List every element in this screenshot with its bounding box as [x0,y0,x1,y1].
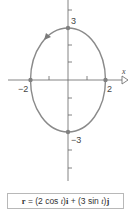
label-x-axis: x [121,67,126,76]
ellipse-diagram: 3 −3 −2 2 x [0,0,132,215]
eq-part1: = (2 cos [26,196,61,206]
x-axis-arrow-icon [122,76,128,84]
equation-box: r = (2 cos t ) i + (3 sin t ) j [7,193,124,209]
label-x-neg2: −2 [18,84,28,94]
label-x-2: 2 [107,84,112,94]
eq-part2: + (3 sin [68,196,101,206]
eq-j: j [106,196,109,206]
label-y-3: 3 [71,16,76,26]
label-y-neg3: −3 [71,135,81,145]
